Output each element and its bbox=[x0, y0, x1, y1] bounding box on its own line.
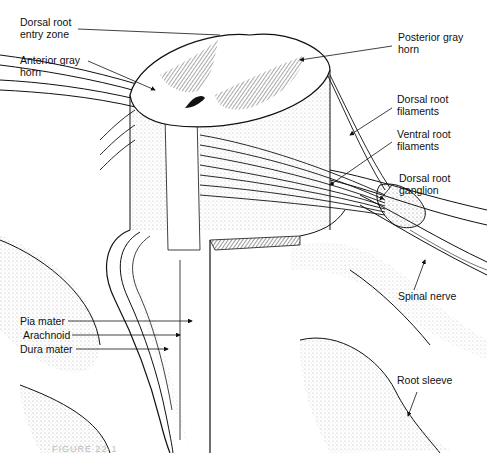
label-pia-mater: Pia mater bbox=[20, 315, 65, 327]
leader-root-sleeve bbox=[408, 392, 417, 416]
leader-dorsal-root-entry-zone bbox=[78, 29, 220, 35]
anatomy-figure: Dorsal root entry zone Anterior gray hor… bbox=[0, 0, 487, 453]
leader-dorsal-root-filaments bbox=[350, 108, 392, 135]
figure-caption: FIGURE 22-1 bbox=[52, 444, 118, 453]
label-posterior-gray-horn: Posterior gray horn bbox=[398, 31, 463, 55]
label-arachnoid: Arachnoid bbox=[23, 329, 70, 341]
label-dorsal-root-ganglion: Dorsal root ganglion bbox=[399, 172, 450, 196]
label-spinal-nerve: Spinal nerve bbox=[398, 290, 456, 302]
label-anterior-gray-horn: Anterior gray horn bbox=[20, 54, 80, 78]
label-dura-mater: Dura mater bbox=[20, 343, 73, 355]
leader-ventral-root-filaments bbox=[330, 142, 392, 185]
leader-spinal-nerve bbox=[414, 260, 425, 290]
label-dorsal-root-filaments: Dorsal root filaments bbox=[397, 93, 448, 117]
surrounding-tissue bbox=[0, 235, 487, 453]
label-root-sleeve: Root sleeve bbox=[397, 374, 452, 386]
label-dorsal-root-entry-zone: Dorsal root entry zone bbox=[20, 16, 71, 40]
label-ventral-root-filaments: Ventral root filaments bbox=[397, 128, 451, 152]
